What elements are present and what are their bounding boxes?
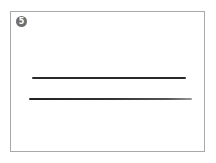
answer-line-2 bbox=[29, 98, 192, 100]
card-frame bbox=[10, 11, 205, 152]
answer-line-1 bbox=[32, 77, 186, 79]
number-badge-icon: 5 bbox=[16, 16, 27, 27]
